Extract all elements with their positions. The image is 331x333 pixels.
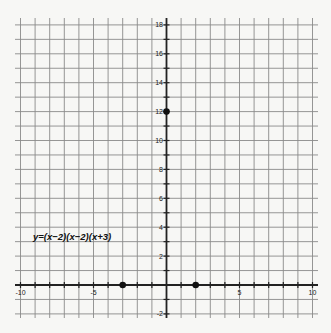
y-tick-label: 16 (155, 50, 163, 57)
y-tick-label: 6 (159, 195, 163, 202)
y-tick-label: 14 (155, 79, 163, 86)
x-tick-label: -10 (15, 289, 25, 296)
y-tick-label: 8 (159, 166, 163, 173)
y-tick-label: 4 (159, 224, 163, 231)
data-point (119, 282, 126, 289)
equation-label: y=(x−2)(x−2)(x+3) (32, 231, 111, 242)
x-tick-label: 10 (309, 289, 317, 296)
y-tick-label: 18 (155, 21, 163, 28)
y-tick-label: 10 (155, 137, 163, 144)
data-point (192, 282, 199, 289)
graph-plot: -10-5510-224681012141618 y=(x−2)(x−2)(x+… (0, 0, 331, 333)
y-tick-label: 12 (155, 108, 163, 115)
data-point (163, 108, 170, 115)
y-tick-label: -2 (157, 310, 163, 317)
x-tick-label: -5 (90, 289, 96, 296)
axes (15, 18, 318, 318)
y-tick-label: 2 (159, 253, 163, 260)
x-tick-label: 5 (238, 289, 242, 296)
